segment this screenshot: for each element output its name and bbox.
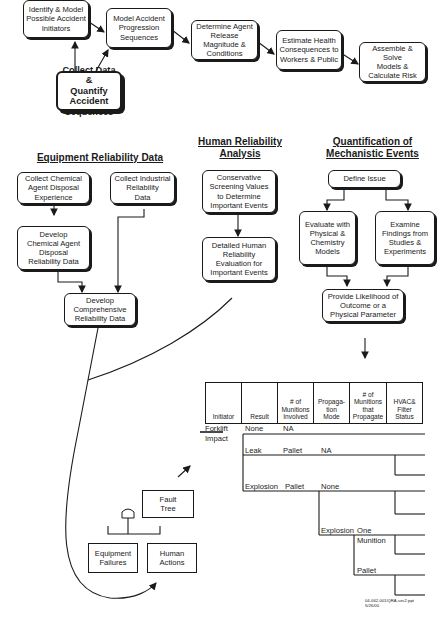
mechanistic-events-title: Quantification of Mechanistic Events [310,136,435,160]
initiator-impact: Impact [205,434,228,443]
estimate-health-box: Estimate Health Consequences to Workers … [276,30,342,70]
col-munitions-propagate: # of Munitions that Propagate [350,382,387,424]
collect-data-box: Collect Data & Quantify Accident Sequenc… [56,71,122,111]
human-reliability-title: Human Reliability Analysis [190,136,290,160]
propagation-na: NA [321,446,332,455]
examine-findings-box: Examine Findings from Studies & Experime… [375,211,435,265]
fault-tree-box: Fault Tree [142,490,194,518]
provide-likelihood-box: Provide Likelihood of Outcome or a Physi… [322,289,404,322]
evaluate-models-box: Evaluate with Physical & Chemistry Model… [299,211,356,265]
detailed-human-box: Detailed Human Reliability Evaluation fo… [202,237,276,281]
equipment-failures-box: Equipment Failures [88,543,138,573]
collect-industrial-box: Collect Industrial Reliability Data [110,172,175,204]
result-none: None [245,424,263,433]
model-progression-box: Model Accident Progression Sequences [106,8,172,48]
screening-values-box: Conservative Screening Values to Determi… [202,170,276,213]
develop-chemical-box: Develop Chemical Agent Disposal Reliabil… [17,226,90,270]
human-actions-box: Human Actions [147,543,197,573]
determine-release-box: Determine Agent Release Magnitude & Cond… [191,20,258,60]
develop-comprehensive-box: Develop Comprehensive Reliability Data [64,293,136,326]
assemble-solve-box: Assemble & Solve Models & Calculate Risk [359,42,426,82]
col-munitions-involved: # of Munitions Involved [278,382,314,424]
collect-chemical-box: Collect Chemical Agent Disposal Experien… [17,172,90,204]
result-leak: Leak [245,446,261,455]
propagate-one: One [357,526,371,535]
define-issue-box: Define Issue [328,170,401,188]
propagation-explosion: Explosion [321,526,354,535]
propagate-munition: Munition [357,536,386,545]
footer-reference: 04-062-001/QRA-sec2.ppt 5/26/00 [365,598,414,608]
equipment-reliability-title: Equipment Reliability Data [30,152,170,164]
propagate-pallet: Pallet [357,566,376,575]
result-explosion: Explosion [245,482,278,491]
identify-initiators-box: Identify & Model Possible Accident Initi… [23,0,89,38]
col-hvac-filter: HVAC& Filter Status [387,382,423,424]
initiator-forklift: Forklift [205,424,228,433]
col-initiator: Initiator [205,382,242,424]
col-result: Result [242,382,278,424]
propagation-none: None [321,482,339,491]
munitions-pallet-leak: Pallet [283,446,302,455]
col-propagation-mode: Propaga- tion Mode [314,382,350,424]
munitions-na: NA [283,424,294,433]
munitions-pallet-explosion: Pallet [285,482,304,491]
